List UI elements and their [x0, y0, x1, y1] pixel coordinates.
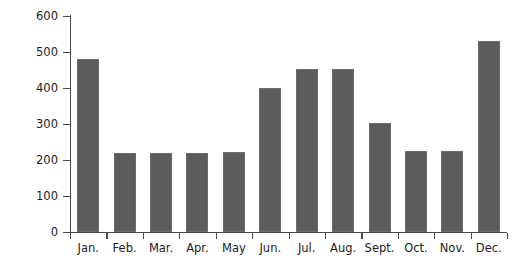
x-tick [507, 233, 508, 239]
x-tick [361, 233, 362, 239]
bar [114, 153, 136, 232]
y-tick [63, 16, 70, 17]
bar [186, 153, 208, 232]
y-tick [63, 196, 70, 197]
y-tick [63, 124, 70, 125]
x-tick [289, 233, 290, 239]
y-tick-label: 100 [14, 189, 58, 203]
y-tick-label: 0 [14, 225, 58, 239]
bar [369, 123, 391, 232]
x-tick [252, 233, 253, 239]
x-tick [179, 233, 180, 239]
y-tick-label: 300 [14, 117, 58, 131]
x-tick [398, 233, 399, 239]
x-tick-label: Jul. [298, 241, 316, 255]
bar-chart: Euro 0100200300400500600 Jan.Feb.Mar.Apr… [0, 0, 522, 265]
x-tick-label: Jun. [259, 241, 281, 255]
x-tick [434, 233, 435, 239]
bar [150, 153, 172, 232]
x-tick-label: Oct. [404, 241, 428, 255]
x-tick-label: Aug. [330, 241, 356, 255]
y-tick [63, 52, 70, 53]
y-tick-label: 600 [14, 9, 58, 23]
y-tick [63, 88, 70, 89]
bar [441, 151, 463, 232]
bar [332, 69, 354, 232]
x-tick-label: Sept. [365, 241, 395, 255]
y-tick-label: 200 [14, 153, 58, 167]
x-tick-label: Apr. [186, 241, 209, 255]
x-tick [216, 233, 217, 239]
y-tick-label: 400 [14, 81, 58, 95]
bar [223, 152, 245, 232]
x-tick-label: Feb. [113, 241, 137, 255]
bar [405, 151, 427, 232]
x-tick-label: Jan. [78, 241, 99, 255]
x-tick-label: May [222, 241, 246, 255]
x-tick-label: Mar. [149, 241, 173, 255]
y-tick-label: 500 [14, 45, 58, 59]
y-tick [63, 232, 70, 233]
x-tick-label: Nov. [440, 241, 465, 255]
bar [478, 41, 500, 232]
y-tick [63, 160, 70, 161]
y-axis-line [70, 15, 71, 233]
x-tick [70, 233, 71, 239]
x-tick [106, 233, 107, 239]
bar [259, 88, 281, 232]
x-tick [325, 233, 326, 239]
bar [77, 59, 99, 232]
x-tick-label: Dec. [476, 241, 502, 255]
x-tick [471, 233, 472, 239]
bar [296, 69, 318, 232]
x-tick [143, 233, 144, 239]
